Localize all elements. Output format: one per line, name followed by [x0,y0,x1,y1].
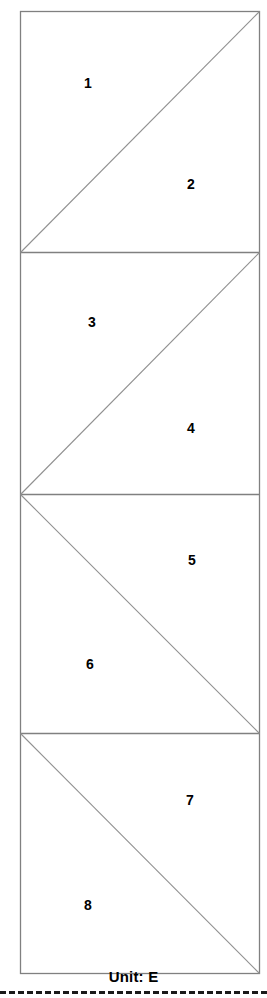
region-label-6: 6 [86,657,94,671]
region-label-3: 3 [88,315,96,329]
outer-frame-rect [21,12,260,974]
region-label-1: 1 [84,76,92,90]
region-label-2: 2 [187,177,195,191]
region-label-4: 4 [187,421,195,435]
region-label-8: 8 [84,898,92,912]
diagram-figure: 1 2 3 4 5 6 7 8 Unit: E [0,0,267,998]
unit-caption: Unit: E [0,968,267,985]
bottom-dashed-rule [0,991,267,994]
region-label-7: 7 [186,793,194,807]
diagram-canvas [0,0,267,998]
region-label-5: 5 [188,553,196,567]
